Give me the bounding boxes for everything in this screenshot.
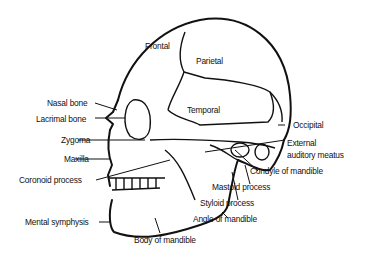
label-styloid-process: Styloid process (200, 198, 254, 208)
label-mental-symphysis: Mental symphysis (25, 217, 89, 227)
label-lacrimal-bone: Lacrimal bone (36, 114, 86, 124)
label-external-auditory-meatus-line1: External (287, 138, 316, 148)
label-maxilla: Maxilla (64, 154, 89, 164)
label-external-auditory-meatus-line2: auditory meatus (287, 150, 344, 160)
label-condyle-of-mandible: Condyle of mandible (250, 166, 323, 176)
label-nasal-bone: Nasal bone (47, 98, 88, 108)
label-occipital: Occipital (293, 120, 323, 130)
label-angle-of-mandible: Angle of mandible (193, 214, 257, 224)
skull-diagram: Frontal Parietal Temporal Occipital Nasa… (0, 0, 371, 261)
label-frontal: Frontal (145, 41, 170, 51)
label-parietal: Parietal (196, 56, 223, 66)
label-mastoid-process: Mastoid process (212, 182, 270, 192)
label-body-of-mandible: Body of mandible (134, 235, 196, 245)
label-zygoma: Zygoma (61, 135, 90, 145)
label-coronoid-process: Coronoid process (19, 175, 82, 185)
label-temporal: Temporal (187, 105, 220, 115)
